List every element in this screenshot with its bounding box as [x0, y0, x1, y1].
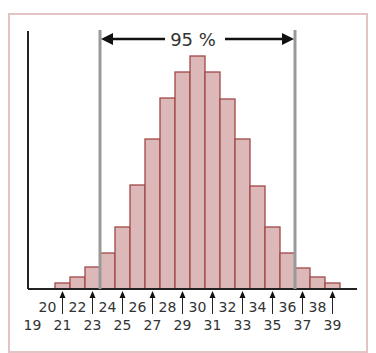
histogram-bar-30 [190, 56, 205, 289]
histogram-bar-25 [115, 227, 130, 289]
x-tick-label-20: 20 [39, 299, 57, 315]
x-tick-label-24: 24 [99, 299, 117, 315]
x-tick-label-23: 23 [84, 317, 102, 333]
x-tick-label-34: 34 [249, 299, 267, 315]
tick-arrow-icon [270, 291, 276, 298]
arrowhead-left-icon [101, 33, 113, 45]
histogram-bar-23 [85, 267, 100, 289]
x-tick-label-27: 27 [144, 317, 162, 333]
histogram-bar-35 [265, 227, 280, 289]
tick-arrow-icon [60, 291, 66, 298]
tick-arrow-icon [240, 291, 246, 298]
x-tick-label-35: 35 [264, 317, 282, 333]
histogram-bar-22 [70, 277, 85, 289]
x-tick-label-22: 22 [69, 299, 87, 315]
x-tick-label-28: 28 [159, 299, 177, 315]
x-axis-ticks: 2022242628303234363819212325272931333537… [24, 291, 342, 333]
tick-arrow-icon [330, 291, 336, 298]
histogram-bar-28 [160, 98, 175, 289]
x-tick-label-21: 21 [54, 317, 72, 333]
tick-arrow-icon [90, 291, 96, 298]
histogram-bar-33 [235, 139, 250, 289]
tick-arrow-icon [150, 291, 156, 298]
x-tick-label-38: 38 [309, 299, 327, 315]
x-tick-label-25: 25 [114, 317, 132, 333]
range-percent-label: 95 % [170, 29, 216, 50]
histogram-bar-36 [280, 253, 295, 289]
x-tick-label-26: 26 [129, 299, 147, 315]
tick-arrow-icon [180, 291, 186, 298]
histogram-bar-26 [130, 185, 145, 289]
histogram-bar-29 [175, 72, 190, 289]
tick-arrow-icon [300, 291, 306, 298]
histogram-bar-24 [100, 253, 115, 289]
tick-arrow-icon [210, 291, 216, 298]
x-tick-label-37: 37 [294, 317, 312, 333]
histogram-bar-32 [220, 99, 235, 289]
histogram-bar-31 [205, 72, 220, 289]
histogram-bar-38 [310, 277, 325, 289]
histogram-bar-34 [250, 186, 265, 289]
histogram-bar-37 [295, 268, 310, 289]
x-tick-label-31: 31 [204, 317, 222, 333]
x-tick-label-33: 33 [234, 317, 252, 333]
x-tick-label-36: 36 [279, 299, 297, 315]
x-tick-label-39: 39 [324, 317, 342, 333]
x-tick-label-19: 19 [24, 317, 42, 333]
tick-arrow-icon [120, 291, 126, 298]
x-tick-label-32: 32 [219, 299, 237, 315]
x-tick-label-29: 29 [174, 317, 192, 333]
histogram-bars [55, 56, 340, 289]
arrowhead-right-icon [282, 33, 294, 45]
x-tick-label-30: 30 [189, 299, 207, 315]
histogram-bar-27 [145, 139, 160, 289]
